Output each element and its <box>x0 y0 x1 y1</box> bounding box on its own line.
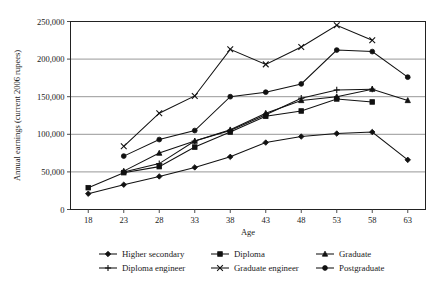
x-tick-label: 33 <box>191 215 200 225</box>
data-point-marker <box>228 94 233 99</box>
data-point-marker <box>227 154 233 160</box>
y-axis-title: Annual earnings (current 2006 rupees) <box>12 50 22 181</box>
data-point-marker <box>85 191 91 197</box>
data-point-marker <box>299 82 304 87</box>
data-point-marker <box>323 266 328 271</box>
x-tick-label: 23 <box>120 215 129 225</box>
data-point-marker <box>156 174 162 180</box>
data-point-marker <box>299 109 304 114</box>
chart-canvas: 050,000100,000150,000200,000250,00018232… <box>0 0 445 289</box>
series-graduate-engineer <box>121 22 375 149</box>
data-point-marker <box>263 140 269 146</box>
x-tick-label: 38 <box>226 215 235 225</box>
data-point-marker <box>86 185 91 190</box>
x-tick-label: 48 <box>297 215 306 225</box>
x-tick-label: 63 <box>404 215 413 225</box>
legend-label: Diploma <box>234 249 265 259</box>
x-tick-label: 58 <box>368 215 377 225</box>
data-point-marker <box>405 75 410 80</box>
y-tick-label: 0 <box>60 205 64 215</box>
data-point-marker <box>105 251 111 257</box>
data-point-marker <box>334 131 340 137</box>
x-tick-label: 53 <box>333 215 342 225</box>
data-point-marker <box>157 137 162 142</box>
x-tick-label: 28 <box>155 215 164 225</box>
data-point-marker <box>334 48 339 53</box>
x-tick-label: 18 <box>84 215 93 225</box>
earnings-by-age-chart: 050,000100,000150,000200,000250,00018232… <box>0 0 445 289</box>
legend-item-graduate[interactable]: Graduate <box>316 249 371 259</box>
series-diploma <box>86 97 375 190</box>
series-line <box>88 99 372 188</box>
data-point-marker <box>370 100 375 105</box>
data-point-marker <box>370 49 375 54</box>
data-point-marker <box>121 182 127 188</box>
y-tick-label: 100,000 <box>37 129 65 139</box>
y-tick-label: 200,000 <box>37 54 65 64</box>
y-tick-label: 250,000 <box>37 17 65 27</box>
series-line <box>124 25 373 146</box>
data-point-marker <box>121 154 126 159</box>
data-point-marker <box>192 165 198 171</box>
series-line <box>88 132 408 194</box>
legend-item-diploma[interactable]: Diploma <box>211 249 265 259</box>
data-point-marker <box>192 128 197 133</box>
legend-item-higher-secondary[interactable]: Higher secondary <box>99 249 185 259</box>
legend-item-diploma-engineer[interactable]: Diploma engineer <box>99 263 185 273</box>
data-point-marker <box>218 252 223 257</box>
x-axis-title: Age <box>241 227 255 237</box>
y-tick-label: 50,000 <box>41 167 64 177</box>
series-higher-secondary <box>85 129 410 196</box>
legend-label: Diploma engineer <box>122 263 185 273</box>
legend-label: Postgraduate <box>339 263 385 273</box>
legend-label: Graduate <box>339 249 371 259</box>
x-tick-label: 43 <box>262 215 271 225</box>
legend-item-postgraduate[interactable]: Postgraduate <box>316 263 385 273</box>
data-point-marker <box>192 145 197 150</box>
legend-label: Graduate engineer <box>234 263 299 273</box>
data-point-marker <box>263 90 268 95</box>
legend-label: Higher secondary <box>122 249 185 259</box>
y-tick-label: 150,000 <box>37 92 65 102</box>
legend-item-graduate-engineer[interactable]: Graduate engineer <box>211 263 299 273</box>
